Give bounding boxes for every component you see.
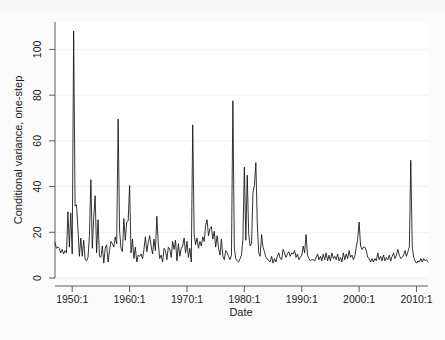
y-tick-label: 100 xyxy=(31,41,43,59)
x-tick-label: 1980:1 xyxy=(228,293,260,305)
x-axis: 1950:11960:11970:11980:11990:12000:12010… xyxy=(55,286,433,305)
x-tick-label: 1970:1 xyxy=(171,293,203,305)
y-tick-label: 20 xyxy=(31,226,43,238)
x-tick-label: 1960:1 xyxy=(114,293,146,305)
x-tick-label: 1950:1 xyxy=(56,293,88,305)
x-tick-label: 1990:1 xyxy=(286,293,318,305)
figure-container: 020406080100 1950:11960:11970:11980:1199… xyxy=(0,0,445,340)
chart-plot-area: 020406080100 1950:11960:11970:11980:1199… xyxy=(0,0,445,340)
x-tick-label: 2010:1 xyxy=(400,293,432,305)
y-tick-label: 0 xyxy=(31,275,43,281)
plot-background xyxy=(55,22,428,278)
y-axis-title: Conditional variance, one-step xyxy=(12,76,24,225)
x-axis-title: Date xyxy=(229,306,252,318)
x-tick-label: 2000:1 xyxy=(343,293,375,305)
y-tick-label: 80 xyxy=(31,89,43,101)
y-tick-label: 40 xyxy=(31,181,43,193)
line-chart: 020406080100 1950:11960:11970:11980:1199… xyxy=(0,0,445,340)
y-tick-label: 60 xyxy=(31,135,43,147)
y-axis: 020406080100 xyxy=(31,22,55,281)
